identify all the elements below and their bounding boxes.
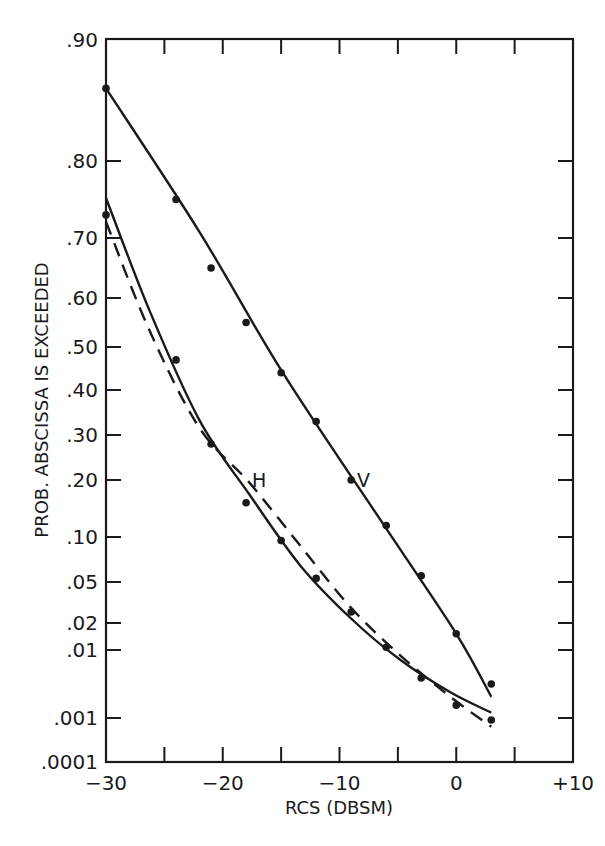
y-tick-label: .01 [66,638,98,662]
fit-curves [106,88,491,726]
y-tick-label: .40 [66,378,98,402]
fit-curve-h-dashed-fit [106,222,491,727]
data-point-v [347,476,355,484]
data-points [102,85,495,724]
y-tick-label: .20 [66,468,98,492]
y-tick-label: .0001 [41,750,98,774]
x-tick-label: −10 [318,771,360,795]
data-point-v [487,680,495,688]
x-axis-tick-labels: −30−20−100+10 [85,771,594,795]
y-tick-label: .90 [66,28,98,52]
data-point-v [417,572,425,580]
y-tick-label: .02 [66,611,98,635]
y-tick-label: .001 [53,706,98,730]
y-tick-label: .50 [66,335,98,359]
x-tick-label: −20 [202,771,244,795]
data-point-h [172,356,180,364]
x-axis-ticks [164,39,514,762]
data-point-h [417,674,425,682]
y-tick-label: .10 [66,525,98,549]
data-point-v [172,196,180,204]
data-point-v [207,264,215,272]
y-tick-label: .05 [66,570,98,594]
data-point-h [207,440,215,448]
data-point-v [382,522,390,530]
y-tick-label: .70 [66,226,98,250]
series-label-v: V [357,469,370,491]
data-point-v [242,319,250,327]
y-tick-label: .80 [66,149,98,173]
data-point-h [347,608,355,616]
data-point-v [102,85,110,93]
y-tick-label: .60 [66,286,98,310]
data-point-v [277,369,285,377]
y-axis-ticks [106,161,573,718]
x-axis-title: RCS (DBSM) [285,797,393,818]
fit-curve-v [106,88,491,696]
probability-chart: −30−20−100+10 .90.80.70.60.50.40.30.20.1… [0,0,605,846]
y-axis-title: PROB. ABSCISSA IS EXCEEDED [31,262,52,537]
data-point-h [487,716,495,724]
x-tick-label: 0 [450,771,463,795]
data-point-h [312,575,320,583]
x-tick-label: −30 [85,771,127,795]
data-point-v [312,418,320,426]
data-point-h [242,499,250,507]
data-point-h [382,644,390,652]
data-point-v [452,630,460,638]
x-tick-label: +10 [552,771,594,795]
data-point-h [277,537,285,545]
axes: −30−20−100+10 .90.80.70.60.50.40.30.20.1… [41,28,594,795]
fit-curve-h [106,198,491,713]
plot-frame [106,39,573,762]
y-tick-label: .30 [66,423,98,447]
data-point-h [452,701,460,709]
series-label-h: H [252,469,266,491]
data-point-h [102,211,110,219]
